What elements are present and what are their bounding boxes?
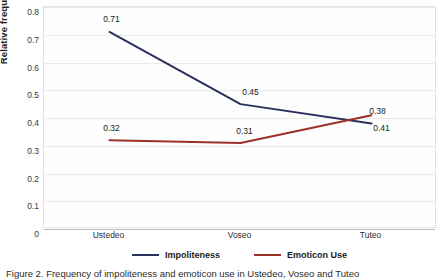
y-axis-tick-label: 0.4 xyxy=(13,118,39,128)
x-axis-tick-label: Ustedeo xyxy=(93,230,125,240)
legend-item-label: Emoticon Use xyxy=(287,250,347,260)
y-axis-tick-label: 0.2 xyxy=(13,174,39,184)
plot-lines xyxy=(44,7,437,229)
y-axis-tick-label: 0.8 xyxy=(13,7,39,17)
x-axis-tick-labels: UstedeoVoseoTuteo xyxy=(43,230,436,246)
y-axis-tick-label: 0.1 xyxy=(13,201,39,211)
y-axis-tick-label: 0.6 xyxy=(13,63,39,73)
y-axis-tick-labels: 00.10.20.30.40.50.60.70.8 xyxy=(11,6,39,228)
figure-caption: Figure 2. Frequency of impoliteness and … xyxy=(6,268,442,280)
x-axis-tick-label: Voseo xyxy=(228,230,252,240)
legend-item[interactable]: Emoticon Use xyxy=(254,250,347,260)
chart-legend: ImpolitenessEmoticon Use xyxy=(43,247,436,263)
data-point-label: 0.38 xyxy=(369,106,386,116)
data-point-label: 0.45 xyxy=(242,87,259,97)
y-axis-title: Relative frequency xyxy=(0,0,9,86)
y-axis-tick-label: 0.5 xyxy=(13,90,39,100)
y-axis-tick-label: 0 xyxy=(13,229,39,239)
data-point-label: 0.41 xyxy=(373,123,390,133)
line-chart-figure: Relative frequency 00.10.20.30.40.50.60.… xyxy=(0,0,446,280)
x-axis-tick-label: Tuteo xyxy=(360,230,381,240)
legend-item[interactable]: Impoliteness xyxy=(132,250,220,260)
series-line-impoliteness xyxy=(110,32,372,124)
data-point-label: 0.31 xyxy=(236,126,253,136)
plot-area: 0.710.450.380.320.310.41 xyxy=(43,6,436,228)
legend-item-label: Impoliteness xyxy=(165,250,220,260)
y-axis-tick-label: 0.3 xyxy=(13,146,39,156)
y-axis-tick-label: 0.7 xyxy=(13,35,39,45)
data-point-label: 0.71 xyxy=(103,14,120,24)
legend-line-icon xyxy=(254,254,281,256)
data-point-label: 0.32 xyxy=(103,123,120,133)
legend-line-icon xyxy=(132,254,159,256)
